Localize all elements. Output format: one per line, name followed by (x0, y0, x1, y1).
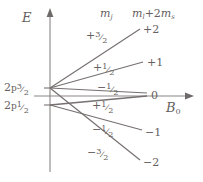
level-label-2p12-prefix: 2 (4, 99, 11, 112)
y-axis-label: E (22, 10, 32, 25)
mj-label-denominator: 2 (108, 129, 113, 139)
mj-label-plus-1-2-lower: +1/2 (92, 99, 113, 112)
mj-header-sub: j (110, 13, 112, 21)
level-label-2p32-fraction: 3/2 (17, 85, 29, 93)
mj-label-fraction: 3/2 (96, 150, 108, 158)
value-label-zero: 0 (151, 89, 158, 102)
mj-label-minus-1-2-upper: −1/2 (97, 81, 118, 94)
x-axis-label-main: B (166, 100, 176, 115)
value-label-minus-1: −1 (145, 126, 161, 139)
mj-label-sign: + (92, 99, 101, 112)
mj-label-fraction: 1/2 (101, 103, 113, 111)
ml-header-main: m (132, 7, 142, 20)
mj-label-plus-3-2: +3/2 (86, 29, 107, 42)
x-axis-arrow (185, 93, 194, 100)
level-label-2p12: 2p1/2 (4, 99, 29, 112)
x-axis-label-sub: 0 (176, 107, 181, 116)
level-label-2p32-prefix: 2 (4, 81, 11, 94)
mj-label-minus-3-2: −3/2 (87, 146, 108, 159)
level-label-2p32-denominator: 2 (24, 87, 29, 97)
mj-label-sign: − (92, 123, 101, 136)
mj-label-sign: − (87, 146, 96, 159)
mj-header-main: m (100, 7, 110, 20)
mj-label-fraction: 3/2 (95, 33, 107, 41)
mj-label-denominator: 2 (103, 152, 108, 162)
mj-label-sign: + (93, 61, 102, 74)
column-header-ml-plus-2ms: ml+2ms (132, 7, 175, 21)
mj-label-plus-1-2-upper: +1/2 (93, 61, 114, 74)
zeeman-splitting-figure: E B0 mj ml+2ms 2p3/2 2p1/2 +3/2 +1/2 −1/… (0, 0, 203, 182)
level-label-2p12-fraction: 1/2 (17, 103, 29, 111)
mj-label-fraction: 1/2 (102, 65, 114, 73)
mj-label-denominator: 2 (102, 35, 107, 45)
mj-label-fraction: 1/2 (106, 85, 118, 93)
mj-label-minus-1-2-lower: −1/2 (92, 123, 113, 136)
mj-label-fraction: 1/2 (101, 127, 113, 135)
value-label-plus-1: +1 (147, 56, 163, 69)
level-label-2p12-denominator: 2 (24, 105, 29, 115)
ms-header-sub: s (171, 13, 175, 21)
mj-label-sign: − (97, 81, 106, 94)
ml-header-operator: +2 (145, 7, 161, 20)
level-label-2p32: 2p3/2 (4, 81, 29, 94)
x-axis-label: B0 (166, 100, 181, 116)
ms-header-main: m (161, 7, 171, 20)
value-label-plus-2: +2 (143, 23, 159, 36)
mj-label-denominator: 2 (108, 105, 113, 115)
mj-label-denominator: 2 (109, 67, 114, 77)
column-header-mj: mj (100, 7, 113, 21)
y-axis-arrow (47, 8, 54, 17)
mj-label-sign: + (86, 29, 95, 42)
mj-label-denominator: 2 (113, 87, 118, 97)
value-label-minus-2: −2 (143, 156, 159, 169)
